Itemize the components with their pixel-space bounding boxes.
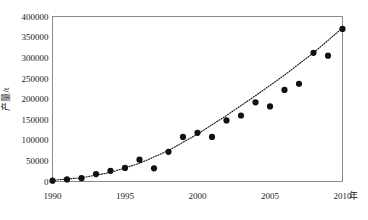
data-point (296, 81, 302, 87)
production-scatter-chart: 0500001000001500002000002500003000003500… (0, 0, 368, 220)
data-point (180, 134, 186, 140)
x-tick-label: 1990 (44, 191, 63, 201)
y-axis-title: 产量/t (0, 87, 11, 111)
data-point (339, 26, 345, 32)
y-axis-tick-labels: 0500001000001500002000002500003000003500… (22, 12, 50, 187)
y-tick-label: 100000 (22, 135, 50, 145)
data-point (64, 176, 70, 182)
data-point (165, 149, 171, 155)
x-tick-label: 2000 (189, 191, 208, 201)
data-point (267, 103, 273, 109)
data-point (122, 165, 128, 171)
y-tick-label: 400000 (22, 12, 50, 22)
x-axis-unit-label: 年 (349, 190, 358, 201)
y-tick-label: 300000 (22, 53, 50, 63)
data-point (325, 53, 331, 59)
x-tick-label: 2005 (261, 191, 280, 201)
data-point (136, 157, 142, 163)
data-point (238, 112, 244, 118)
data-point (151, 165, 157, 171)
data-point (252, 99, 258, 105)
y-tick-label: 150000 (22, 115, 50, 125)
data-point (209, 134, 215, 140)
x-tick-label: 1995 (116, 191, 135, 201)
chart-container: 0500001000001500002000002500003000003500… (0, 0, 368, 220)
y-tick-label: 50000 (26, 156, 49, 166)
data-point (194, 130, 200, 136)
data-point (223, 117, 229, 123)
data-point (78, 175, 84, 181)
chart-background (0, 0, 368, 220)
data-point (49, 178, 55, 184)
y-tick-label: 350000 (22, 32, 50, 42)
y-tick-label: 200000 (22, 94, 50, 104)
data-point (310, 50, 316, 56)
data-point (281, 87, 287, 93)
y-tick-label: 250000 (22, 74, 50, 84)
data-point (93, 171, 99, 177)
data-point (107, 168, 113, 174)
y-tick-label: 0 (44, 177, 49, 187)
